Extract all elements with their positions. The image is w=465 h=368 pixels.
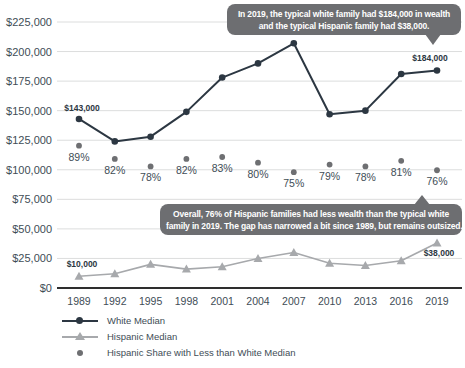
share-percent-label: 89% [68, 151, 89, 163]
y-tick-label: $75,000 [12, 193, 52, 205]
annotation-text: In 2019, the typical white family had $1… [233, 8, 455, 20]
callout-tail-down-icon [425, 34, 441, 45]
hispanic-median-point [289, 248, 298, 256]
x-tick-label: 2007 [282, 295, 306, 307]
share-dot [184, 156, 190, 162]
legend-item-hispanic-share: Hispanic Share with Less than White Medi… [62, 346, 296, 359]
white-median-point [183, 109, 190, 116]
share-dot [363, 164, 369, 170]
wealth-gap-chart-figure: $225,000$200,000$175,000$150,000$125,000… [0, 0, 465, 368]
y-tick-label: $175,000 [6, 75, 52, 87]
hispanic-median-point [397, 256, 406, 264]
share-percent-label: 79% [319, 170, 340, 182]
white-median-line-marker-icon [62, 314, 98, 327]
callout-tail-up-icon [414, 195, 430, 205]
white-median-point [326, 111, 333, 118]
white-median-point [255, 60, 262, 67]
x-tick-label: 1992 [103, 295, 127, 307]
share-percent-label: 83% [212, 162, 233, 174]
legend-label: White Median [107, 315, 165, 326]
point-value-label: $38,000 [424, 248, 455, 258]
x-tick-label: 1995 [139, 295, 163, 307]
annotation-text: Overall, 76% of Hispanic families had le… [166, 208, 456, 220]
annotation-share-gap-callout: Overall, 76% of Hispanic families had le… [160, 204, 462, 235]
share-percent-label: 82% [104, 164, 125, 176]
share-dot [327, 162, 333, 168]
annotation-2019-values-callout: In 2019, the typical white family had $1… [227, 4, 461, 35]
share-dot [291, 169, 297, 175]
share-percent-label: 78% [140, 171, 161, 183]
hispanic-median-point [146, 260, 155, 268]
y-tick-label: $25,000 [12, 252, 52, 264]
share-dot [434, 167, 440, 173]
share-percent-label: 80% [247, 168, 268, 180]
y-tick-label: $100,000 [6, 164, 52, 176]
wealth-chart-canvas: $225,000$200,000$175,000$150,000$125,000… [0, 0, 465, 310]
share-percent-label: 81% [391, 166, 412, 178]
y-tick-label: $225,000 [6, 16, 52, 28]
legend-item-hispanic-median: Hispanic Median [62, 330, 296, 343]
white-median-point [362, 107, 369, 114]
x-tick-label: 2010 [318, 295, 342, 307]
y-tick-label: $200,000 [6, 46, 52, 58]
x-tick-label: 2019 [425, 295, 449, 307]
legend-label: Hispanic Median [107, 331, 177, 342]
hispanic-median-line-marker-icon [62, 330, 98, 343]
chart-legend: White Median Hispanic Median Hispanic Sh… [62, 314, 296, 359]
share-dot [148, 164, 154, 170]
legend-label: Hispanic Share with Less than White Medi… [107, 347, 296, 358]
white-median-point [434, 67, 441, 74]
share-dot [76, 143, 82, 149]
annotation-text: and the typical Hispanic family had $38,… [233, 20, 455, 32]
annotation-text: family in 2019. The gap has narrowed a b… [166, 220, 456, 232]
white-median-point [398, 71, 405, 78]
share-dot-marker-icon [62, 346, 98, 359]
point-value-label: $10,000 [67, 259, 98, 269]
x-tick-label: 2004 [246, 295, 270, 307]
x-tick-label: 2013 [354, 295, 378, 307]
x-tick-label: 2016 [390, 295, 414, 307]
white-median-point [76, 116, 83, 123]
x-tick-label: 2001 [211, 295, 235, 307]
share-percent-label: 75% [283, 177, 304, 189]
share-dot [219, 154, 225, 160]
y-tick-label: $50,000 [12, 223, 52, 235]
share-dot [255, 160, 261, 166]
y-tick-label: $150,000 [6, 105, 52, 117]
white-median-point [147, 133, 154, 140]
point-value-label: $143,000 [64, 103, 100, 113]
share-percent-label: 76% [426, 175, 447, 187]
white-median-line [79, 43, 437, 141]
y-tick-label: $125,000 [6, 134, 52, 146]
point-value-label: $184,000 [412, 53, 448, 63]
x-tick-label: 1989 [67, 295, 91, 307]
share-dot [398, 158, 404, 164]
share-percent-label: 78% [355, 171, 376, 183]
share-dot [112, 156, 118, 162]
white-median-point [219, 74, 226, 81]
legend-item-white-median: White Median [62, 314, 296, 327]
white-median-point [112, 138, 119, 145]
y-tick-label: $0 [40, 282, 52, 294]
hispanic-median-point [433, 239, 442, 247]
share-percent-label: 82% [176, 164, 197, 176]
x-tick-label: 1998 [175, 295, 199, 307]
white-median-point [291, 40, 298, 47]
